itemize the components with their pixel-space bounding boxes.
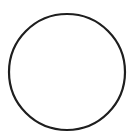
circle-outline-icon bbox=[9, 14, 125, 130]
circle-canvas bbox=[0, 0, 134, 138]
